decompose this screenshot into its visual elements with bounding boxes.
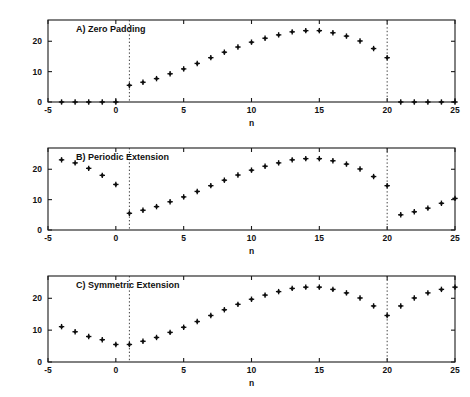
data-point: [249, 297, 254, 302]
data-point: [86, 99, 91, 104]
data-point: [59, 324, 64, 329]
y-tick-label: 10: [33, 67, 43, 77]
plot-b-svg: -5051015202501020B) Periodic Extensionn: [0, 134, 470, 260]
panel-periodic-extension: -5051015202501020B) Periodic Extensionn: [0, 134, 470, 260]
data-point: [398, 212, 403, 217]
y-tick-label: 0: [37, 357, 42, 367]
data-point: [86, 166, 91, 171]
data-point: [412, 99, 417, 104]
data-point: [303, 156, 308, 161]
panel-symmetric-extension: -5051015202501020C) Symmetric Extensionn: [0, 262, 470, 392]
data-point: [344, 161, 349, 166]
data-point: [181, 194, 186, 199]
x-tick-label: -5: [44, 365, 52, 375]
x-tick-label: 0: [113, 105, 118, 115]
x-tick-label: 20: [382, 233, 392, 243]
data-point: [100, 99, 105, 104]
data-point: [317, 284, 322, 289]
data-point: [290, 286, 295, 291]
data-point: [235, 172, 240, 177]
data-point: [425, 99, 430, 104]
panel-title: C) Symmetric Extension: [76, 280, 180, 290]
data-point: [235, 302, 240, 307]
x-axis-label: n: [249, 118, 254, 128]
data-point: [357, 38, 362, 43]
panel-title: A) Zero Padding: [76, 24, 146, 34]
data-point: [330, 158, 335, 163]
data-point: [276, 289, 281, 294]
data-point: [398, 99, 403, 104]
data-point: [276, 160, 281, 165]
data-point: [195, 189, 200, 194]
data-point: [140, 208, 145, 213]
data-point: [222, 49, 227, 54]
x-tick-label: 25: [450, 105, 460, 115]
data-point: [181, 66, 186, 71]
data-point: [113, 182, 118, 187]
data-series: [59, 28, 458, 105]
data-point: [113, 99, 118, 104]
data-point: [290, 29, 295, 34]
data-point: [113, 342, 118, 347]
data-point: [127, 342, 132, 347]
data-point: [357, 295, 362, 300]
data-point: [249, 39, 254, 44]
figure-root: -5051015202501020A) Zero Paddingn -50510…: [0, 0, 470, 397]
x-axis-label: n: [249, 246, 254, 256]
data-point: [439, 99, 444, 104]
data-point: [249, 167, 254, 172]
x-tick-label: 15: [315, 233, 325, 243]
panel-zero-padding: -5051015202501020A) Zero Paddingn: [0, 6, 470, 132]
x-tick-label: 0: [113, 233, 118, 243]
y-tick-label: 20: [33, 293, 43, 303]
data-point: [384, 183, 389, 188]
data-point: [167, 330, 172, 335]
data-point: [167, 71, 172, 76]
data-point: [127, 83, 132, 88]
data-series: [59, 284, 458, 347]
data-point: [384, 313, 389, 318]
x-tick-label: 10: [247, 365, 257, 375]
y-tick-label: 10: [33, 195, 43, 205]
data-point: [276, 32, 281, 37]
data-point: [425, 290, 430, 295]
data-point: [452, 196, 457, 201]
x-tick-label: 10: [247, 233, 257, 243]
x-tick-label: 15: [315, 365, 325, 375]
data-point: [154, 204, 159, 209]
data-point: [262, 164, 267, 169]
y-tick-label: 0: [37, 97, 42, 107]
data-point: [208, 313, 213, 318]
data-point: [452, 99, 457, 104]
plot-a-svg: -5051015202501020A) Zero Paddingn: [0, 6, 470, 132]
data-point: [235, 44, 240, 49]
data-point: [181, 325, 186, 330]
data-point: [222, 177, 227, 182]
x-tick-label: 5: [181, 105, 186, 115]
plot-c-svg: -5051015202501020C) Symmetric Extensionn: [0, 262, 470, 392]
data-point: [208, 183, 213, 188]
data-point: [140, 339, 145, 344]
data-point: [222, 307, 227, 312]
data-point: [140, 80, 145, 85]
data-point: [127, 211, 132, 216]
data-point: [154, 76, 159, 81]
x-tick-label: 25: [450, 233, 460, 243]
x-axis-label: n: [249, 378, 254, 388]
x-tick-label: 0: [113, 365, 118, 375]
x-tick-label: -5: [44, 233, 52, 243]
data-point: [412, 209, 417, 214]
data-point: [357, 166, 362, 171]
data-point: [439, 201, 444, 206]
data-point: [371, 174, 376, 179]
data-point: [208, 55, 213, 60]
data-point: [439, 287, 444, 292]
data-point: [72, 99, 77, 104]
data-point: [371, 46, 376, 51]
x-tick-label: 15: [315, 105, 325, 115]
data-point: [317, 28, 322, 33]
y-tick-label: 10: [33, 325, 43, 335]
y-tick-label: 0: [37, 225, 42, 235]
data-point: [86, 334, 91, 339]
data-point: [412, 295, 417, 300]
